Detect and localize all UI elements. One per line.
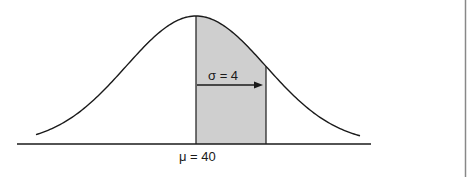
sigma-label: σ = 4 (208, 68, 238, 83)
mean-label: μ = 40 (179, 149, 216, 164)
normal-curve-diagram: σ = 4 μ = 40 (0, 0, 472, 177)
